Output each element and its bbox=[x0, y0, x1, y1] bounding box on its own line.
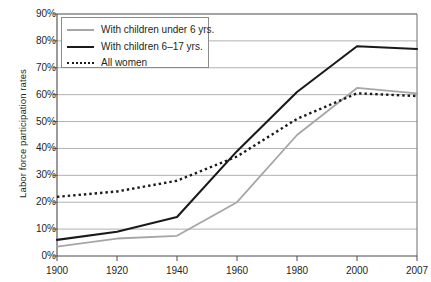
x-axis-tick-label: 2007 bbox=[387, 265, 431, 276]
series-line bbox=[57, 88, 417, 247]
x-axis-tick-label: 1960 bbox=[207, 265, 267, 276]
legend-item-with-children-6-17: With children 6–17 yrs. bbox=[67, 38, 203, 54]
chart-container: Labor force participation rates 0%10%20%… bbox=[0, 0, 431, 282]
series-line bbox=[57, 93, 417, 197]
legend-item-all-women: All women bbox=[67, 54, 147, 70]
legend-line-sample-gray-icon bbox=[67, 23, 94, 35]
legend-line-sample-dotted-icon bbox=[67, 56, 94, 68]
legend-item-label: With children 6–17 yrs. bbox=[101, 41, 203, 52]
x-axis-tick-label: 1920 bbox=[87, 265, 147, 276]
series-line bbox=[57, 46, 417, 240]
legend-item-with-children-under-6: With children under 6 yrs. bbox=[67, 21, 214, 37]
x-axis-tick-label: 2000 bbox=[327, 265, 387, 276]
legend-item-label: With children under 6 yrs. bbox=[101, 24, 214, 35]
legend-line-sample-black-icon bbox=[67, 40, 94, 52]
legend-item-label: All women bbox=[101, 57, 147, 68]
chart-legend: With children under 6 yrs. With children… bbox=[61, 17, 209, 68]
x-axis-tick-label: 1980 bbox=[267, 265, 327, 276]
x-axis-tick-label: 1940 bbox=[147, 265, 207, 276]
x-axis-tick-label: 1900 bbox=[27, 265, 87, 276]
